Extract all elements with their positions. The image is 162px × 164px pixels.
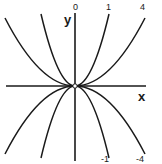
curve-label-1: 1 — [106, 3, 111, 12]
parabola-family-plot — [0, 0, 162, 164]
x-axis-label: x — [138, 90, 145, 103]
y-axis-label: y — [64, 13, 71, 26]
curve-label-0: 0 — [73, 3, 78, 12]
origin-point — [73, 84, 77, 88]
curve-label-neg1: -1 — [101, 155, 109, 164]
curve-label-4: 4 — [140, 3, 145, 12]
curve-label-neg4: -4 — [136, 155, 144, 164]
